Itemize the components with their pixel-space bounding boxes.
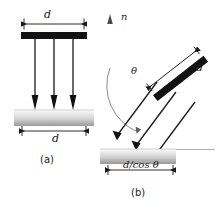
panel-a-rays (32, 39, 77, 110)
panel-a-footprint-label: d (52, 133, 59, 144)
panel-b-caption: (b) (131, 188, 145, 198)
panel-b-footprint-label: d/cos θ (123, 160, 159, 170)
panel-a-beam-width-label: d (44, 9, 51, 20)
panel-b-beam-width-label: d (196, 62, 203, 73)
panel-b-angle-label: θ (131, 66, 137, 76)
panel-a-target-slab (14, 110, 94, 126)
panel-b-normal-line (107, 14, 113, 148)
panel-a-caption: (a) (40, 155, 54, 165)
panel-b-normal-label: n (121, 12, 127, 22)
panel-a-group (14, 19, 94, 137)
panel-a-source-bar (21, 32, 87, 39)
panel-b-angle-arc (107, 68, 138, 132)
panel-b-rays (112, 82, 195, 160)
panel-a-width-dimension (24, 19, 84, 30)
figure-svg (0, 0, 219, 211)
physics-figure-beam-footprint: d d (a) n θ d d/cos θ (b) (0, 0, 219, 211)
panel-b-group (100, 14, 215, 175)
